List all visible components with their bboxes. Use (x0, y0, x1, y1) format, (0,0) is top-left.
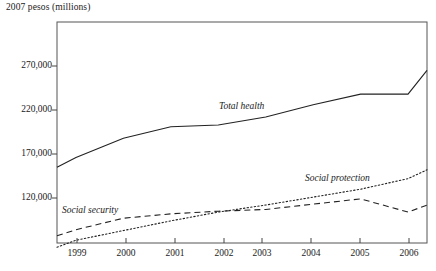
series-annotation-social-protection: Social protection (305, 173, 370, 183)
y-axis-ticks (52, 66, 57, 198)
chart-page: 2007 pesos (millions) 270,000 220,000 17… (0, 0, 436, 271)
series-line-total-health (57, 70, 427, 167)
series-annotation-social-security: Social security (62, 205, 118, 215)
x-axis-ticks (77, 238, 409, 243)
series-annotation-total-health: Total health (219, 101, 264, 111)
chart-plot-area (0, 0, 436, 271)
